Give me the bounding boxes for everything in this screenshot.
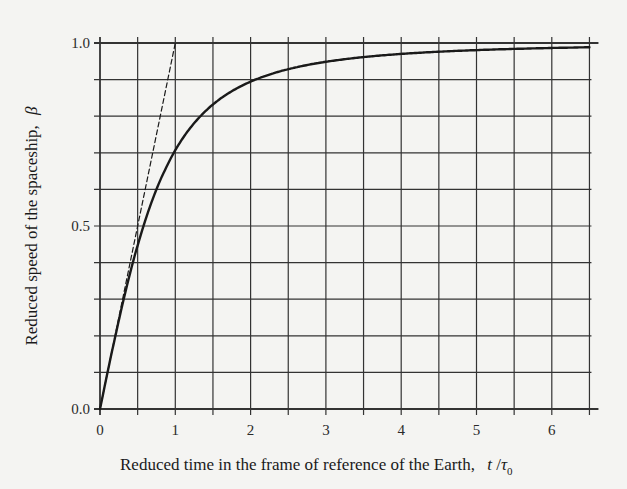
y-axis-label: Reduced speed of the spaceship,	[22, 125, 41, 345]
y-tick-label: 0.5	[71, 218, 90, 234]
x-tick-label: 6	[548, 422, 556, 438]
x-tick-label: 2	[247, 422, 255, 438]
y-axis-symbol: β	[22, 106, 41, 116]
tick-labels: 01234560.00.51.0	[71, 35, 556, 438]
x-tick-label: 0	[96, 422, 104, 438]
x-tick-label: 1	[172, 422, 180, 438]
relativistic-curve	[100, 47, 589, 409]
y-tick-label: 1.0	[71, 35, 90, 51]
x-tick-label: 4	[397, 422, 405, 438]
x-tick-label: 3	[322, 422, 330, 438]
x-axis-title: Reduced time in the frame of reference o…	[120, 455, 513, 477]
y-axis-title: Reduced speed of the spaceship, β	[22, 106, 41, 346]
x-axis-label: Reduced time in the frame of reference o…	[120, 455, 475, 474]
x-tick-label: 5	[473, 422, 481, 438]
chart: 01234560.00.51.0 Reduced time in the fra…	[0, 0, 627, 489]
x-axis-symbol-sub: 0	[507, 465, 513, 477]
svg-text:Reduced time in the frame of r: Reduced time in the frame of reference o…	[120, 455, 513, 477]
y-tick-label: 0.0	[71, 401, 90, 417]
grid-lines	[94, 37, 598, 415]
svg-text:Reduced speed of the spaceship: Reduced speed of the spaceship, β	[22, 106, 41, 346]
x-axis-symbol-slash: /	[492, 455, 501, 474]
